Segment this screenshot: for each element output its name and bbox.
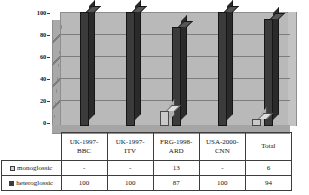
tick-mark [47, 101, 50, 102]
column-header-2: FRG-1998- ARD [153, 133, 199, 161]
tick-mark [47, 57, 50, 58]
bar-front-face [252, 119, 261, 126]
bar-heteroglossic-UK-1997-ITV [126, 12, 135, 126]
gridline-edge [52, 100, 60, 109]
bar-group [152, 12, 198, 126]
cell-heteroglossic-3: 100 [199, 176, 245, 191]
column-header-1: UK-1997- ITV [107, 133, 153, 161]
tick-mark [47, 35, 50, 36]
bar-group [60, 12, 106, 126]
cell-monoglossic-2: 13 [153, 161, 199, 176]
table-row: monoglossic - - 13 - 6 [2, 161, 292, 176]
y-axis-tick-60: 60 [40, 54, 50, 61]
column-header-line2: CNN [200, 147, 245, 156]
plot-area [52, 12, 297, 136]
bar-front-face [80, 12, 89, 126]
column-header-line1: FRG-1998- [154, 138, 199, 147]
column-header-line1: Total [246, 142, 291, 151]
column-header-0: UK-1997- BBC [61, 133, 107, 161]
light-gray-square-icon [10, 166, 15, 171]
y-axis: 100 80 60 40 20 0 [26, 2, 50, 138]
data-table: UK-1997- BBC UK-1997- ITV FRG-1998- ARD … [1, 132, 292, 191]
dark-gray-square-icon [9, 181, 14, 186]
legend-label: heteroglossic [16, 179, 53, 187]
tick-mark [47, 123, 50, 124]
gridline-edge [52, 78, 60, 87]
header-spacer-cell [2, 133, 62, 161]
bar-monoglossic-FRG-1998-ARD [160, 111, 169, 126]
bars-layer [60, 12, 290, 126]
bar-side-face [181, 15, 187, 120]
bar-front-face [160, 111, 169, 126]
table-row: heteroglossic 100 100 87 100 94 [2, 176, 292, 191]
y-axis-tick-100: 100 [37, 10, 50, 17]
gridline-edge [52, 34, 60, 43]
chart-figure: 100 80 60 40 20 0 UK-1997- BB [0, 0, 309, 195]
y-axis-tick-80: 80 [40, 32, 50, 39]
cell-heteroglossic-1: 100 [107, 176, 153, 191]
bar-chart: 100 80 60 40 20 0 [0, 2, 309, 138]
bar-heteroglossic-USA-2000-CNN [218, 12, 227, 126]
cell-monoglossic-total: 6 [245, 161, 291, 176]
bar-group [106, 12, 152, 126]
legend-item-monoglossic: monoglossic [2, 161, 62, 176]
cell-heteroglossic-0: 100 [61, 176, 107, 191]
bar-side-face [89, 0, 95, 120]
table-header-row: UK-1997- BBC UK-1997- ITV FRG-1998- ARD … [2, 133, 292, 161]
column-header-line1: UK-1997- [62, 138, 107, 147]
bar-monoglossic-Total [252, 119, 261, 126]
column-header-line2: ITV [108, 147, 153, 156]
cell-monoglossic-1: - [107, 161, 153, 176]
bar-group [244, 12, 290, 126]
column-header-line2: BBC [62, 147, 107, 156]
legend-label: monoglossic [17, 164, 52, 172]
column-header-line2: ARD [154, 147, 199, 156]
bar-group [198, 12, 244, 126]
tick-mark [47, 13, 50, 14]
cell-heteroglossic-2: 87 [153, 176, 199, 191]
column-header-line1: UK-1997- [108, 138, 153, 147]
cell-monoglossic-3: - [199, 161, 245, 176]
column-header-3: USA-2000- CNN [199, 133, 245, 161]
bar-front-face [218, 12, 227, 126]
gridline-edge [52, 56, 60, 65]
bar-side-face [273, 7, 279, 120]
tick-mark [47, 79, 50, 80]
bar-side-face [227, 0, 233, 120]
y-axis-tick-0: 0 [43, 120, 50, 127]
column-header-line1: USA-2000- [200, 138, 245, 147]
legend-item-heteroglossic: heteroglossic [2, 176, 62, 191]
bar-front-face [126, 12, 135, 126]
cell-monoglossic-0: - [61, 161, 107, 176]
y-axis-tick-20: 20 [40, 98, 50, 105]
bar-heteroglossic-UK-1997-BBC [80, 12, 89, 126]
column-header-total: Total [245, 133, 291, 161]
cell-heteroglossic-total: 94 [245, 176, 291, 191]
bar-side-face [135, 0, 141, 120]
y-axis-tick-40: 40 [40, 76, 50, 83]
